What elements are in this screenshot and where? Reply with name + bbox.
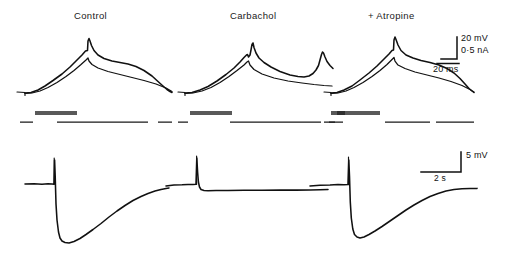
figure-canvas: Control Carbachol + Atropine xyxy=(0,0,505,256)
trace-carbachol-suprathreshold xyxy=(185,43,333,93)
trace-carbachol-ahp xyxy=(166,158,328,191)
scale-label-current-top: 0·5 nA xyxy=(461,45,489,56)
trace-carbachol-baseline-lead xyxy=(178,92,185,96)
trace-layer xyxy=(0,0,505,256)
trace-carbachol-subthreshold xyxy=(185,61,332,94)
scale-bar-bottom xyxy=(421,152,461,172)
scale-label-time-bottom: 2 s xyxy=(434,173,446,184)
scale-label-voltage-top: 20 mV xyxy=(461,33,488,44)
scale-label-voltage-bottom: 5 mV xyxy=(466,150,488,161)
scale-bar-top xyxy=(441,37,457,59)
trace-control-subthreshold xyxy=(25,58,172,94)
trace-control-suprathreshold xyxy=(25,39,172,94)
trace-atropine-baseline-lead xyxy=(324,92,331,96)
scale-label-time-top: 20 ms xyxy=(433,64,459,75)
trace-control-ahp xyxy=(25,160,169,243)
trace-control-baseline-lead xyxy=(17,92,25,96)
